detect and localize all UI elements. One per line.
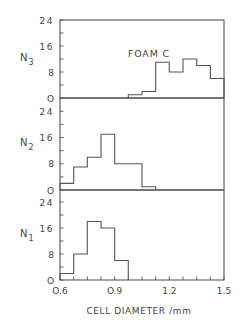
y-tick-label: 8 — [48, 159, 54, 169]
y-tick-label: O — [47, 276, 54, 286]
histogram-figure: O81624N3O81624N2O81624N1O.6O.91.21.5 FOA… — [0, 0, 242, 328]
x-axis-title: CELL DIAMETER /mm — [86, 306, 191, 316]
panel-frame-n1 — [60, 190, 224, 280]
histogram-n1 — [60, 222, 128, 281]
y-tick-label: 16 — [40, 224, 54, 234]
y-tick-label: 8 — [48, 250, 54, 260]
y-axis-label-n3: N3 — [20, 52, 34, 67]
x-tick-label: 1.2 — [162, 286, 176, 296]
x-tick-label: O.6 — [52, 286, 68, 296]
y-axis-label-n2: N2 — [20, 137, 34, 152]
x-tick-label: O.9 — [107, 286, 123, 296]
y-tick-label: O — [47, 186, 54, 196]
panel-frame-n3 — [60, 20, 224, 98]
panel-frames — [60, 20, 224, 280]
y-tick-label: O — [47, 94, 54, 104]
y-tick-label: 16 — [40, 42, 54, 52]
y-tick-label: 24 — [40, 16, 54, 26]
histogram-n2 — [60, 134, 156, 190]
x-tick-label: 1.5 — [217, 286, 231, 296]
axis-labels: O81624N3O81624N2O81624N1O.6O.91.21.5 — [20, 16, 231, 297]
foam-annotation: FOAM C — [128, 48, 170, 59]
y-tick-label: 24 — [40, 107, 54, 117]
y-axis-label-n1: N1 — [20, 228, 34, 243]
y-tick-label: 16 — [40, 133, 54, 143]
histogram-n3 — [128, 59, 224, 98]
y-tick-label: 8 — [48, 68, 54, 78]
histogram-steps — [60, 59, 224, 280]
y-tick-label: 24 — [40, 198, 54, 208]
axis-ticks — [60, 20, 224, 280]
